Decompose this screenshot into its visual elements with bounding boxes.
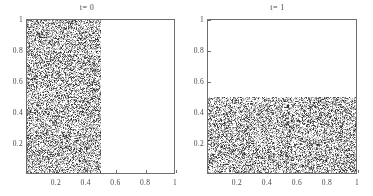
x-tick: [358, 170, 359, 173]
panel-title-left: t= 0: [0, 3, 180, 12]
y-tick: [208, 51, 211, 52]
x-tick: [298, 170, 299, 173]
x-tick-label: 0.6: [103, 178, 127, 187]
y-tick-label: 0.4: [180, 108, 204, 117]
y-tick-label: 0.8: [180, 46, 204, 55]
x-tick: [328, 170, 329, 173]
x-tick-label: 0.4: [74, 178, 98, 187]
x-tick-label: 0.2: [44, 178, 68, 187]
plot-area-left: [27, 20, 174, 173]
x-tick: [116, 170, 117, 173]
x-tick: [57, 170, 58, 173]
y-tick: [208, 20, 211, 21]
y-tick-label: 0.2: [0, 139, 23, 148]
y-tick: [208, 144, 211, 145]
y-tick-label: 1: [0, 15, 23, 24]
y-tick: [208, 113, 211, 114]
plot-frame-right: [207, 19, 357, 174]
x-tick-label: 0.6: [285, 178, 309, 187]
y-tick-label: 0.8: [0, 46, 23, 55]
panel-title-right: t= 1: [184, 3, 371, 12]
x-tick: [146, 170, 147, 173]
y-tick-label: 0.6: [180, 77, 204, 86]
y-tick: [27, 144, 30, 145]
y-tick: [27, 20, 30, 21]
plot-panel-left: t= 0 10.80.60.40.20.20.40.60.81: [0, 0, 186, 196]
noise-region-left: [27, 20, 101, 173]
x-tick-label: 1: [345, 178, 369, 187]
plot-area-right: [208, 20, 356, 173]
y-tick: [27, 113, 30, 114]
y-tick-label: 0.4: [0, 108, 23, 117]
x-tick-label: 0.2: [225, 178, 249, 187]
y-tick-label: 0.6: [0, 77, 23, 86]
x-tick: [87, 170, 88, 173]
y-tick: [27, 82, 30, 83]
y-tick: [208, 82, 211, 83]
x-tick-label: 0.8: [133, 178, 157, 187]
y-tick-label: 0.2: [180, 139, 204, 148]
x-tick-label: 0.8: [315, 178, 339, 187]
x-tick: [238, 170, 239, 173]
y-tick: [27, 51, 30, 52]
plot-frame-left: [26, 19, 175, 174]
noise-region-right: [208, 97, 356, 174]
x-tick: [176, 170, 177, 173]
x-tick: [268, 170, 269, 173]
x-tick-label: 0.4: [255, 178, 279, 187]
x-tick-label: 1: [163, 178, 187, 187]
plot-panel-right: t= 1 10.80.60.40.20.20.40.60.81: [186, 0, 373, 196]
y-tick-label: 1: [180, 15, 204, 24]
figure-container: t= 0 10.80.60.40.20.20.40.60.81 t= 1 10.…: [0, 0, 373, 196]
